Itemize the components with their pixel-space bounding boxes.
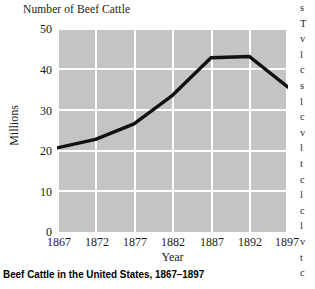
- x-tick-label-1897: 1897: [275, 235, 299, 250]
- figure-caption: Beef Cattle in the United States, 1867–1…: [3, 268, 204, 280]
- y-tick-label-50: 50: [18, 23, 52, 35]
- data-series-line: [57, 28, 288, 232]
- x-axis-title: Year: [57, 250, 288, 265]
- x-tick-label-1877: 1877: [123, 235, 147, 250]
- x-tick-label-1887: 1887: [200, 235, 224, 250]
- y-tick-label-10: 10: [18, 186, 52, 198]
- x-tick-label-1872: 1872: [85, 235, 109, 250]
- series-polyline: [57, 57, 288, 148]
- x-tick-label-1882: 1882: [161, 235, 185, 250]
- y-axis-title: Millions: [7, 91, 22, 161]
- page-edge-text-column: sTvlcslcvltclclvtc: [300, 0, 315, 289]
- x-tick-label-1867: 1867: [47, 235, 71, 250]
- y-tick-label-30: 30: [18, 105, 52, 117]
- x-tick-label-1892: 1892: [238, 235, 262, 250]
- y-tick-label-40: 40: [18, 64, 52, 76]
- y-tick-label-20: 20: [18, 145, 52, 157]
- x-axis-ticks: 1867 1872 1877 1882 1887 1892 1897: [57, 235, 288, 251]
- figure-beef-cattle: Number of Beef Cattle 50 40 30 20 10 0 M…: [0, 0, 315, 289]
- plot-area: [57, 28, 288, 232]
